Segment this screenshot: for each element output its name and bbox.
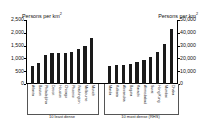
- right-tick-mark: [178, 58, 180, 59]
- right-axis-title-superscript: 2: [196, 12, 198, 16]
- bar-group-most-dense: [106, 20, 175, 84]
- chart-figure: Persons per km2 Persons per km2 05001,00…: [0, 0, 204, 126]
- bar: [156, 52, 159, 84]
- bar-slot: [161, 20, 168, 84]
- right-tick-label: 10,000: [180, 69, 196, 74]
- bar: [122, 65, 125, 84]
- left-tick-label: 2,500: [11, 17, 24, 22]
- bar: [57, 53, 60, 84]
- group-caption-least-dense: 10 least dense: [27, 115, 97, 119]
- bar-slot: [75, 20, 82, 84]
- bar-slot: [113, 20, 120, 84]
- left-tick-mark: [24, 58, 26, 59]
- bar-slot: [82, 20, 89, 84]
- right-tick-mark: [178, 71, 180, 72]
- bar: [83, 46, 86, 84]
- right-tick-label: 30,000: [180, 43, 196, 48]
- right-tick-label: 40,000: [180, 30, 196, 35]
- bar-group-least-dense: [29, 20, 95, 84]
- bar-slot: [127, 20, 134, 84]
- bar: [129, 64, 132, 84]
- left-tick-label: 1,000: [11, 56, 24, 61]
- group-bracket-most-dense: [104, 84, 179, 115]
- group-bracket-least-dense: [27, 84, 99, 115]
- right-axis-spine: [177, 20, 178, 84]
- bar: [108, 66, 111, 84]
- bar-slot: [147, 20, 154, 84]
- bar-slot: [106, 20, 113, 84]
- right-tick-mark: [178, 20, 180, 21]
- bar-slot: [88, 20, 95, 84]
- bar: [115, 65, 118, 84]
- bar-slot: [29, 20, 36, 84]
- plot-area: [26, 20, 178, 84]
- left-tick-label: 2,000: [11, 30, 24, 35]
- right-tick-mark: [178, 46, 180, 47]
- left-axis-title-text: Persons per km: [22, 13, 60, 19]
- bar: [77, 49, 80, 84]
- bar: [31, 66, 34, 84]
- left-axis-spine: [26, 20, 27, 84]
- left-tick-label: 1,500: [11, 43, 24, 48]
- right-tick-mark: [178, 33, 180, 34]
- bar-slot: [141, 20, 148, 84]
- left-tick-mark: [24, 71, 26, 72]
- bar-slot: [154, 20, 161, 84]
- bar: [135, 62, 138, 84]
- left-tick-mark: [24, 33, 26, 34]
- left-axis-title-superscript: 2: [60, 12, 62, 16]
- bar: [163, 44, 166, 84]
- bar: [37, 63, 40, 85]
- bar-slot: [36, 20, 43, 84]
- left-tick-mark: [24, 20, 26, 21]
- bar-slot: [55, 20, 62, 84]
- bar-slot: [168, 20, 175, 84]
- left-tick-label: 500: [15, 69, 24, 74]
- bar: [70, 52, 73, 84]
- bar: [149, 57, 152, 84]
- bar: [50, 53, 53, 84]
- bar-slot: [120, 20, 127, 84]
- bar-slot: [69, 20, 76, 84]
- bar-slot: [42, 20, 49, 84]
- bar-slot: [62, 20, 69, 84]
- left-tick-mark: [24, 46, 26, 47]
- left-axis-title: Persons per km2: [22, 11, 62, 19]
- bar: [170, 29, 173, 84]
- right-tick-label: 0: [180, 81, 183, 86]
- group-caption-most-dense: 10 most dense (RHS): [104, 115, 177, 119]
- right-tick-label: 50,000: [180, 17, 196, 22]
- bar: [64, 53, 67, 84]
- bar: [44, 55, 47, 84]
- right-tick-label: 20,000: [180, 56, 196, 61]
- bar-slot: [49, 20, 56, 84]
- left-tick-mark: [24, 84, 26, 85]
- bar: [142, 60, 145, 84]
- bar-slot: [134, 20, 141, 84]
- bar: [90, 38, 93, 84]
